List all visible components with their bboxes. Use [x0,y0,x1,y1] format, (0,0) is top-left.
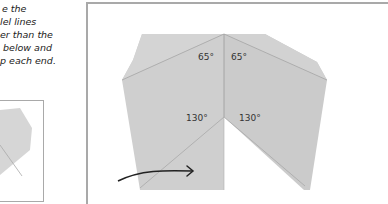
angle-label-top-right: 65° [231,52,247,62]
angle-label-top-left: 65° [198,52,214,62]
angle-label-inner-right: 130° [239,113,261,123]
angle-label-inner-left: 130° [186,113,208,123]
